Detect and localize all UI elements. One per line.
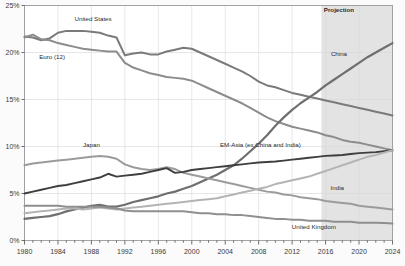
x-tick-label: 2000 xyxy=(184,248,200,255)
y-tick-label: 10% xyxy=(5,143,19,150)
y-tick-label: 0% xyxy=(9,237,19,244)
x-tick-label: 1992 xyxy=(117,248,133,255)
x-tick-label: 1996 xyxy=(151,248,167,255)
plot-background-layer xyxy=(25,6,393,241)
annotation-united-states: United States xyxy=(75,15,112,22)
x-tick-label: 1984 xyxy=(50,248,66,255)
annotation-china: China xyxy=(331,50,348,57)
y-tick-label: 5% xyxy=(9,190,19,197)
x-tick-label: 1980 xyxy=(17,248,33,255)
annotation-japan: Japan xyxy=(83,141,100,148)
x-tick-label: 2024 xyxy=(385,248,401,255)
annotation-india: India xyxy=(331,184,345,191)
y-tick-label: 20% xyxy=(5,49,19,56)
chart-container: 0%5%10%15%20%25% 19801984198819921996200… xyxy=(0,0,405,266)
x-tick-label: 2020 xyxy=(351,248,367,255)
x-tick-label: 2016 xyxy=(318,248,334,255)
y-axis-tick-labels: 0%5%10%15%20%25% xyxy=(5,2,19,244)
y-tick-label: 25% xyxy=(5,2,19,9)
annotation-united-kingdom: United Kingdom xyxy=(292,223,336,230)
annotation-euro-12: Euro (12) xyxy=(39,53,65,60)
y-tick-label: 15% xyxy=(5,96,19,103)
x-axis-tick-labels: 1980198419881992199620002004200820122016… xyxy=(17,248,401,255)
x-tick-label: 2012 xyxy=(284,248,300,255)
line-chart: 0%5%10%15%20%25% 19801984198819921996200… xyxy=(0,0,405,266)
x-tick-label: 2008 xyxy=(251,248,267,255)
annotation-em-asia: EM-Asia (ex China and India) xyxy=(220,141,301,148)
annotation-projection: Projection xyxy=(324,6,354,13)
x-tick-label: 2004 xyxy=(217,248,233,255)
x-tick-label: 1988 xyxy=(84,248,100,255)
